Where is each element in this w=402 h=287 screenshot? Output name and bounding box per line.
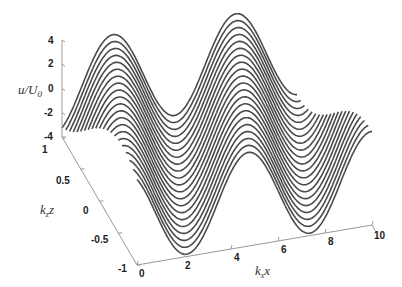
z-tick-neg0.5: -0.5 <box>91 234 109 245</box>
u-tick-2: 2 <box>48 58 54 69</box>
x-tick-4: 4 <box>234 252 240 263</box>
x-tick-10: 10 <box>374 230 386 241</box>
z-tick-0: 0 <box>83 205 89 216</box>
tick-mark <box>372 221 373 225</box>
z-tick-1: 1 <box>42 144 48 155</box>
x-tick-8: 8 <box>328 236 334 247</box>
u-tick-neg4: -4 <box>44 131 53 142</box>
x-tick-6: 6 <box>281 244 287 255</box>
u-tick-neg2: -2 <box>44 107 53 118</box>
curve-family <box>62 14 372 255</box>
z-tick-0.5: 0.5 <box>56 175 70 186</box>
u-axis-label: u/U0 <box>18 82 43 99</box>
z-axis-label: kzz <box>40 202 54 219</box>
x-tick-2: 2 <box>185 260 191 271</box>
u-tick-0: 0 <box>48 83 54 94</box>
x-axis-label: kxx <box>255 263 270 280</box>
u-tick-4: 4 <box>48 35 54 46</box>
x-tick-0: 0 <box>139 268 145 279</box>
waterfall-plot: 4 2 0 -2 -4 1 0.5 0 -0.5 -1 0 2 4 6 8 10… <box>0 0 402 287</box>
z-tick-neg1: -1 <box>118 263 127 274</box>
